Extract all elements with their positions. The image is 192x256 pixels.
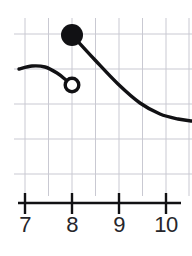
x-axis-tick-label: 9 xyxy=(113,214,125,236)
x-axis-tick-label: 8 xyxy=(66,214,78,236)
x-axis-tick-label: 7 xyxy=(19,214,31,236)
graph-figure: 78910 xyxy=(0,0,192,256)
x-axis-tick-label: 10 xyxy=(154,214,177,236)
